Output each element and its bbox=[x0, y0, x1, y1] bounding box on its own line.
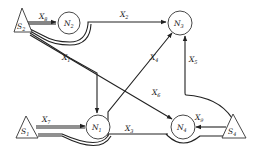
source-s2: S2 bbox=[14, 8, 32, 32]
label-x5: X5 bbox=[188, 55, 198, 65]
node-n3: N3 bbox=[168, 11, 192, 35]
edge-x6 bbox=[30, 35, 172, 119]
source-s4: S4 bbox=[222, 114, 246, 138]
flow-network-diagram: S2 N2 N3 S1 N1 N4 S4 X8 X2 X1 X4 X5 X6 X… bbox=[0, 0, 256, 151]
edge-x2 bbox=[30, 22, 166, 45]
edge-x4 bbox=[108, 33, 172, 136]
label-x1: X1 bbox=[61, 53, 71, 63]
label-x3: X3 bbox=[124, 124, 134, 134]
node-n2: N2 bbox=[58, 12, 80, 34]
label-x2: X2 bbox=[119, 10, 129, 20]
edge-x5 bbox=[185, 36, 232, 118]
node-n1: N1 bbox=[86, 115, 110, 139]
source-s1: S1 bbox=[16, 116, 38, 138]
label-x4: X4 bbox=[149, 53, 159, 63]
edge-x7 bbox=[36, 126, 85, 128]
label-x8: X8 bbox=[38, 12, 48, 22]
label-x9: X9 bbox=[194, 113, 204, 123]
label-x6: X6 bbox=[151, 88, 161, 98]
node-n4: N4 bbox=[171, 115, 195, 139]
edge-x8 bbox=[27, 22, 56, 24]
label-x7: X7 bbox=[41, 115, 51, 125]
